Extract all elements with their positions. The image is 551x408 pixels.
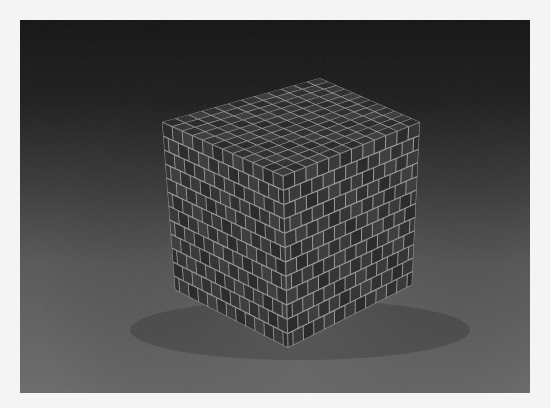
render-viewport [20,20,530,393]
cube-render [20,20,530,393]
film-grain [20,20,530,393]
